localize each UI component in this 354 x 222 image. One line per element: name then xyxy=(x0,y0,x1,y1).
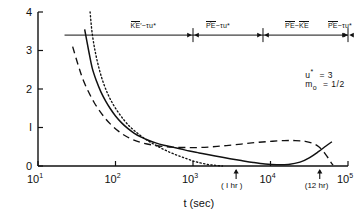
x-tick-exponent: 5 xyxy=(349,172,353,179)
x-tick-label-1e1: 101 xyxy=(27,172,43,185)
regime-quantity: KE· xyxy=(131,22,141,29)
regime-target-text: τu* xyxy=(146,22,156,29)
y-tick-label-3: 3 xyxy=(18,45,32,56)
x-tick-base: 10 xyxy=(105,173,117,185)
x-axis-hour-markers xyxy=(234,169,323,179)
regime-label-regime-1: KE·′~τu* xyxy=(131,22,157,29)
param-symbol: m xyxy=(305,79,313,89)
overbar-icon xyxy=(328,21,338,22)
x-tick-exponent: 1 xyxy=(39,172,43,179)
regime-target: τu* xyxy=(220,22,230,29)
regime-quantity: PE· xyxy=(285,22,295,29)
x-axis-title: t (sec) xyxy=(184,198,215,209)
param-subscript: o xyxy=(313,84,317,91)
figure-chart-energy-regimes: 0I234 101102103104105 ( I hr )(12 hr) KE… xyxy=(0,0,354,222)
regime-target: KE· xyxy=(299,22,309,29)
plot-area xyxy=(0,0,354,222)
regime-target-text: τu* xyxy=(342,22,352,29)
regime-target: τu* xyxy=(146,22,156,29)
x-tick-exponent: 4 xyxy=(272,172,276,179)
x-tick-label-1e3: 103 xyxy=(182,172,198,185)
regime-quantity: PE· xyxy=(328,22,338,29)
y-tick-label-2: 2 xyxy=(18,84,32,95)
param-superscript: * xyxy=(310,68,313,75)
regime-bar xyxy=(65,28,354,42)
x-tick-label-1e5: 105 xyxy=(337,172,353,185)
regime-target: τu* xyxy=(342,22,352,29)
x-tick-exponent: 3 xyxy=(194,172,198,179)
overbar-icon xyxy=(285,21,295,22)
x-tick-base: 10 xyxy=(27,173,39,185)
x-tick-base: 10 xyxy=(182,173,194,185)
y-tick-label-0: 0 xyxy=(18,161,32,172)
param-m0: mo = 1/2 xyxy=(305,80,345,91)
x-tick-label-1e4: 104 xyxy=(260,172,276,185)
overbar-icon xyxy=(131,21,141,22)
x-marker-label-1hr: ( I hr ) xyxy=(221,182,242,190)
regime-target-text: τu* xyxy=(220,22,230,29)
regime-quantity: PE· xyxy=(206,22,216,29)
regime-label-regime-4: PE·~τu* xyxy=(328,22,352,29)
param-ustar: u* = 3 xyxy=(305,68,333,79)
curve-dashed-curve xyxy=(73,47,333,166)
y-tick-label-I: I xyxy=(18,122,32,133)
overbar-icon xyxy=(299,21,309,22)
curve-solid-curve xyxy=(85,29,332,165)
x-marker-label-12hr: (12 hr) xyxy=(305,182,329,190)
regime-label-regime-2: PE·~τu* xyxy=(206,22,230,29)
regime-label-regime-3: PE·~KE· xyxy=(285,22,309,29)
x-tick-base: 10 xyxy=(337,173,349,185)
param-value: = 1/2 xyxy=(320,79,345,89)
x-tick-label-1e2: 102 xyxy=(105,172,121,185)
overbar-icon xyxy=(206,21,216,22)
x-tick-base: 10 xyxy=(260,173,272,185)
y-tick-label-4: 4 xyxy=(18,7,32,18)
y-axis-ticks xyxy=(38,12,43,166)
x-tick-exponent: 2 xyxy=(117,172,121,179)
